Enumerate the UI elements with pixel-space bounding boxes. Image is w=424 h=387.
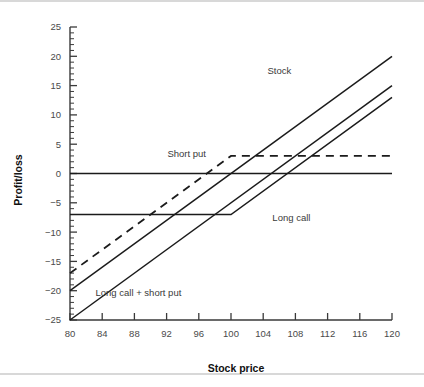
x-axis-tick-label: 88 [129,328,140,339]
y-axis-tick-label: −25 [45,314,61,325]
x-axis-tick-label: 116 [352,328,367,339]
y-axis-tick-label: 25 [50,21,61,32]
chart-figure: −25−20−15−10−505101520258084889296100104… [0,0,424,387]
y-axis-tick-label: 0 [56,168,61,179]
series-annotation-long-call-short-put: Long call + short put [96,287,182,298]
y-axis-tick-label: −15 [45,256,61,267]
y-axis-tick-label: 5 [56,139,61,150]
y-axis-tick-label: −10 [45,227,61,238]
x-axis-tick-label: 112 [320,328,335,339]
series-line-long-call-short-put [70,86,392,320]
series-annotation-stock: Stock [267,65,291,76]
y-axis-title: Profit/loss [12,154,24,206]
y-axis-tick-label: −20 [45,285,61,296]
x-axis-tick-label: 120 [384,328,400,339]
series-annotation-short-put: Short put [167,148,206,159]
x-axis-tick-label: 104 [255,328,271,339]
y-axis-tick-label: −5 [50,197,61,208]
x-axis-title: Stock price [208,362,265,374]
x-axis-tick-label: 96 [194,328,205,339]
x-axis-tick-label: 84 [97,328,108,339]
series-layer [70,56,392,320]
x-axis-tick-label: 100 [223,328,239,339]
y-axis-tick-label: 15 [50,80,61,91]
x-axis-tick-label: 92 [161,328,172,339]
profit-loss-chart: −25−20−15−10−505101520258084889296100104… [0,0,424,387]
series-annotation-long-call: Long call [272,212,310,223]
x-axis-tick-label: 108 [287,328,303,339]
x-axis-tick-label: 80 [65,328,76,339]
y-axis-tick-label: 20 [50,51,61,62]
y-axis-tick-label: 10 [50,109,61,120]
